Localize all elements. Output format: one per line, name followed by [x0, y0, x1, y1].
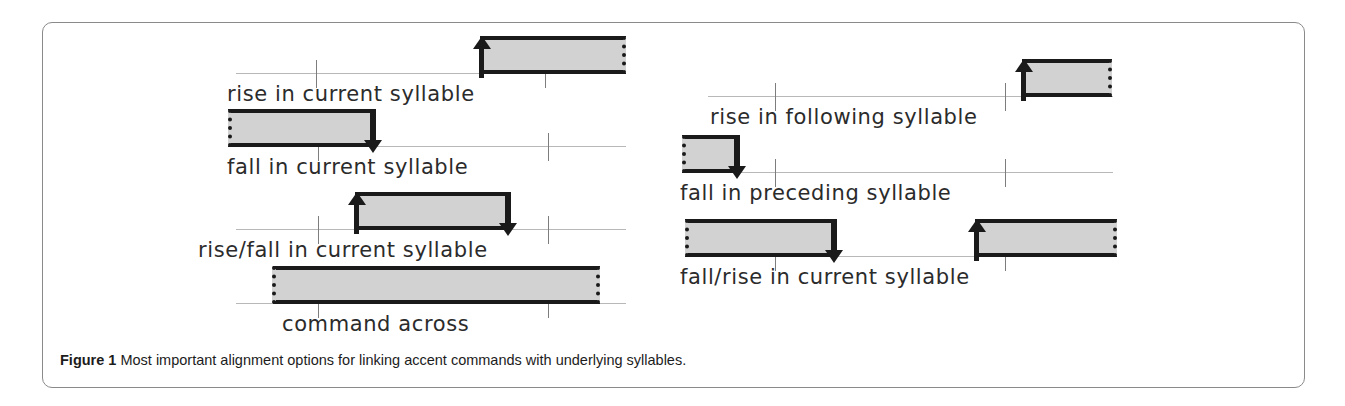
panel-label: rise/fall in current syllable: [198, 238, 488, 262]
figure-caption: Figure 1 Most important alignment option…: [60, 352, 1300, 368]
panel-label: fall in preceding syllable: [680, 181, 951, 205]
accent-command-box: [355, 192, 511, 230]
syllable-tick: [548, 133, 549, 161]
accent-command-box: [975, 219, 1117, 257]
panel-label: rise in following syllable: [710, 105, 978, 129]
syllable-tick: [1005, 83, 1006, 111]
panel-label: fall/rise in current syllable: [680, 265, 970, 289]
panel-label: fall in current syllable: [227, 155, 468, 179]
panel-label: command across: [282, 312, 469, 336]
figure-caption-label: Figure 1: [60, 352, 116, 368]
accent-command-box: [685, 219, 837, 257]
accent-command-box: [272, 266, 600, 304]
diagram-area: rise in current syllable fall in current…: [0, 0, 1345, 330]
syllable-baseline: [735, 172, 1113, 173]
accent-command-box: [1022, 59, 1112, 97]
accent-command-box: [480, 36, 626, 74]
panel-label: rise in current syllable: [227, 82, 475, 106]
accent-command-box: [228, 109, 376, 147]
figure-caption-text: Most important alignment options for lin…: [120, 352, 686, 368]
syllable-tick: [1005, 159, 1006, 187]
syllable-tick: [548, 216, 549, 244]
